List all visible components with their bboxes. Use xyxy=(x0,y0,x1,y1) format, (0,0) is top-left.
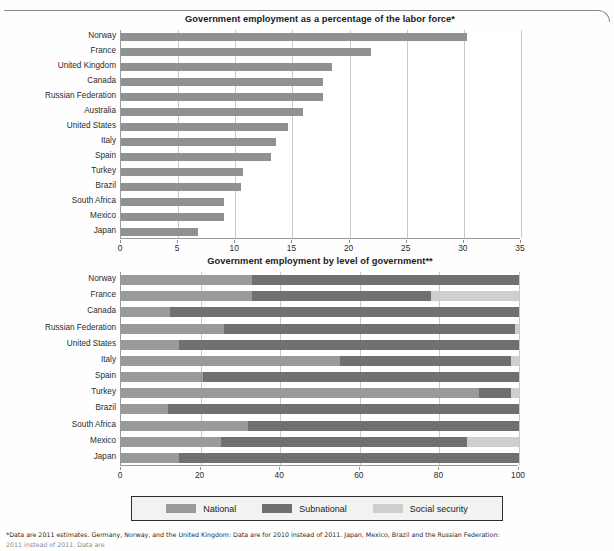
stacked-bar-segment xyxy=(248,421,519,431)
chart-category-label: Spain xyxy=(0,152,116,160)
legend-item: National xyxy=(166,504,236,514)
stacked-bar-segment xyxy=(179,340,519,350)
bar xyxy=(121,213,224,221)
x-tick-mark xyxy=(518,467,519,470)
bar xyxy=(121,228,198,236)
x-tick-mark xyxy=(120,240,121,243)
x-tick-label: 5 xyxy=(162,243,192,253)
x-tick-label: 100 xyxy=(503,470,533,480)
chart-labor-force-share: Government employment as a percentage of… xyxy=(0,14,614,246)
chart1-title: Government employment as a percentage of… xyxy=(110,14,530,24)
chart-category-label: Italy xyxy=(0,137,116,145)
chart-category-label: Italy xyxy=(0,356,116,364)
stacked-bar-segment xyxy=(121,275,252,285)
stacked-bar-segment xyxy=(121,307,170,317)
chart-category-label: Brazil xyxy=(0,404,116,412)
gridline-5 xyxy=(178,30,179,238)
chart-category-label: Japan xyxy=(0,227,116,235)
stacked-bar-segment xyxy=(511,356,519,366)
chart-category-label: United Kingdom xyxy=(0,62,116,70)
stacked-bar-segment xyxy=(121,356,340,366)
gridline-20 xyxy=(350,30,351,238)
chart-level-of-government: Government employment by level of govern… xyxy=(0,256,614,488)
x-tick-label: 15 xyxy=(276,243,306,253)
legend-item-label: Subnational xyxy=(299,504,347,514)
chart-category-label: Brazil xyxy=(0,182,116,190)
x-tick-mark xyxy=(291,240,292,243)
chart-category-label: South Africa xyxy=(0,197,116,205)
x-tick-mark xyxy=(177,240,178,243)
x-tick-mark xyxy=(406,240,407,243)
chart-category-label: Japan xyxy=(0,453,116,461)
stacked-bar-segment xyxy=(224,324,515,334)
bar xyxy=(121,78,323,86)
chart-category-label: Turkey xyxy=(0,388,116,396)
chart1-x-axis: 05101520253035 xyxy=(0,240,614,254)
gridline-35 xyxy=(521,30,522,238)
x-tick-label: 35 xyxy=(505,243,535,253)
stacked-bar-segment xyxy=(252,291,431,301)
chart1-category-labels: NorwayFranceUnited KingdomCanadaRussian … xyxy=(0,30,116,239)
x-tick-mark xyxy=(438,467,439,470)
stacked-bar-segment xyxy=(121,404,168,414)
bar xyxy=(121,198,224,206)
bar xyxy=(121,138,276,146)
chart-category-label: Russian Federation xyxy=(0,324,116,332)
footnote-line-1: *Data are 2011 estimates. Germany, Norwa… xyxy=(6,531,606,539)
bar xyxy=(121,153,271,161)
legend-swatch-social-security xyxy=(373,504,403,513)
bar xyxy=(121,33,467,41)
x-tick-label: 25 xyxy=(391,243,421,253)
chart-category-label: France xyxy=(0,47,116,55)
stacked-bar-segment xyxy=(252,275,519,285)
chart2-x-axis: 020406080100 xyxy=(0,467,614,481)
x-tick-label: 10 xyxy=(219,243,249,253)
chart-category-label: Australia xyxy=(0,107,116,115)
legend-swatch-national xyxy=(166,504,196,513)
stacked-bar-segment xyxy=(121,372,203,382)
chart-category-label: Norway xyxy=(0,32,116,40)
x-tick-mark xyxy=(463,240,464,243)
legend-item-label: Social security xyxy=(410,504,468,514)
legend-item: Social security xyxy=(373,504,468,514)
legend-swatch-subnational xyxy=(262,504,292,513)
chart2-category-labels: NorwayFranceCanadaRussian FederationUnit… xyxy=(0,272,116,466)
gridline-25 xyxy=(407,30,408,238)
stacked-bar-segment xyxy=(121,453,179,463)
stacked-bar-segment xyxy=(340,356,511,366)
gridline-100 xyxy=(519,272,520,465)
bar xyxy=(121,63,332,71)
stacked-bar-segment xyxy=(121,437,221,447)
chart-category-label: United States xyxy=(0,122,116,130)
x-tick-mark xyxy=(359,467,360,470)
chart-category-label: Turkey xyxy=(0,167,116,175)
stacked-bar-segment xyxy=(467,437,519,447)
stacked-bar-segment xyxy=(121,388,479,398)
x-tick-label: 0 xyxy=(105,470,135,480)
x-tick-label: 20 xyxy=(334,243,364,253)
x-tick-label: 40 xyxy=(264,470,294,480)
x-tick-label: 20 xyxy=(185,470,215,480)
chart2-title: Government employment by level of govern… xyxy=(110,256,530,266)
stacked-bar-segment xyxy=(203,372,519,382)
chart-category-label: South Africa xyxy=(0,421,116,429)
stacked-bar-segment xyxy=(121,324,224,334)
stacked-bar-segment xyxy=(431,291,519,301)
chart-category-label: Norway xyxy=(0,275,116,283)
stacked-bar-segment xyxy=(179,453,519,463)
x-tick-label: 0 xyxy=(105,243,135,253)
x-tick-label: 80 xyxy=(423,470,453,480)
x-tick-mark xyxy=(200,467,201,470)
chart-category-label: Canada xyxy=(0,307,116,315)
gridline-15 xyxy=(292,30,293,238)
bar xyxy=(121,108,303,116)
chart-category-label: United States xyxy=(0,340,116,348)
stacked-bar-segment xyxy=(121,340,179,350)
chart-category-label: Mexico xyxy=(0,212,116,220)
bar xyxy=(121,93,323,101)
stacked-bar-segment xyxy=(479,388,511,398)
legend-item: Subnational xyxy=(262,504,347,514)
x-tick-mark xyxy=(120,467,121,470)
x-tick-label: 60 xyxy=(344,470,374,480)
stacked-bar-segment xyxy=(170,307,519,317)
